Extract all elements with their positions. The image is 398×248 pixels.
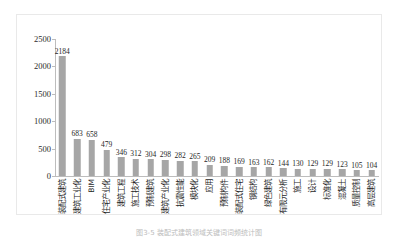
bar-column[interactable]: 282 [173,39,188,176]
plot-area: 2184683658479346312304298282265209188169… [55,39,379,176]
y-axis-tick-labels: 05001000150020002500 [17,39,51,177]
y-axis-tick-mark [52,176,55,177]
bar-value-label: 282 [175,152,186,160]
bar[interactable] [89,140,96,176]
x-axis-label: 应用 [203,179,217,193]
bar-column[interactable]: 144 [276,39,291,176]
bar-column[interactable]: 2184 [55,39,70,176]
bar-value-label: 312 [130,150,141,158]
x-axis-label-slot: 应用 [202,178,217,230]
x-axis-label-slot: 装配式建筑 [55,178,70,230]
x-axis-label-slot: 混凝土 [335,178,350,230]
bar-column[interactable]: 304 [143,39,158,176]
bar-column[interactable]: 265 [188,39,203,176]
x-axis-label-slot: 建筑工程 [114,178,129,230]
x-axis-label: 标准化 [321,179,335,200]
x-axis-label: 建筑工业化 [71,179,85,214]
x-axis-label-slot: 建筑工业化 [70,178,85,230]
bar[interactable] [324,169,331,176]
x-axis-label-slot: 绿色建筑 [261,178,276,230]
x-axis-label-slot: 装配式住宅 [232,178,247,230]
x-axis-label-slot: 抗震性能 [173,178,188,230]
bar-column[interactable]: 129 [320,39,335,176]
x-axis-label-slot: 预制建筑 [143,178,158,230]
bar-value-label: 123 [337,161,348,169]
bar[interactable] [147,159,154,176]
bar-column[interactable]: 658 [84,39,99,176]
bar-value-label: 209 [204,156,215,164]
x-axis-label: 施工 [291,179,305,193]
x-axis-label-slot: 施工技术 [129,178,144,230]
bar[interactable] [118,157,125,176]
bar-column[interactable]: 209 [202,39,217,176]
bar-value-label: 169 [233,158,244,166]
y-axis-tick-mark [52,149,55,150]
x-axis-label-slot: 模块化 [188,178,203,230]
bar[interactable] [354,170,361,176]
x-axis-category-labels: 装配式建筑建筑工业化BIM住宅产业化建筑工程施工技术预制建筑建筑产业化抗震性能模… [55,178,379,230]
bar-value-label: 129 [307,160,318,168]
bar-column[interactable]: 162 [261,39,276,176]
x-axis-label-slot: 设计 [305,178,320,230]
x-axis-label: BIM [85,179,99,193]
y-axis-tick-mark [52,39,55,40]
bar[interactable] [309,169,316,176]
x-axis-label: 混凝土 [336,179,350,200]
bar[interactable] [265,167,272,176]
x-axis-label-slot: 施工 [291,178,306,230]
bar[interactable] [103,150,110,176]
bar-value-label: 130 [292,160,303,168]
bar[interactable] [280,168,287,176]
bar-value-label: 346 [116,149,127,157]
bar[interactable] [206,165,213,176]
bar-value-label: 104 [366,162,377,170]
bar[interactable] [339,169,346,176]
bar-column[interactable]: 479 [99,39,114,176]
bar[interactable] [133,159,140,176]
bar-value-label: 298 [160,151,171,159]
bar[interactable] [177,161,184,176]
bar[interactable] [162,160,169,176]
bar-column[interactable]: 188 [217,39,232,176]
x-axis-label: 施工技术 [129,179,143,207]
x-axis-label-slot: 住宅产业化 [99,178,114,230]
bar-column[interactable]: 129 [305,39,320,176]
bar-column[interactable]: 123 [335,39,350,176]
x-axis-label: 装配式住宅 [233,179,247,214]
bar-value-label: 188 [219,157,230,165]
bar[interactable] [192,161,199,176]
bar-value-label: 2184 [55,48,70,56]
bar-column[interactable]: 163 [246,39,261,176]
x-axis-label: 有限元分析 [277,179,291,214]
bar-column[interactable]: 346 [114,39,129,176]
bar-value-label: 162 [263,159,274,167]
bar[interactable] [368,170,375,176]
bar[interactable] [251,167,258,176]
x-axis-label-slot: 有限元分析 [276,178,291,230]
bar[interactable] [236,167,243,176]
bar-column[interactable]: 105 [350,39,365,176]
bar-column[interactable]: 683 [70,39,85,176]
bar-column[interactable]: 298 [158,39,173,176]
x-axis-label: 抗震性能 [174,179,188,207]
y-axis-tick-0: 0 [47,172,51,181]
bar-value-label: 479 [101,141,112,149]
bar[interactable] [221,166,228,176]
bar-column[interactable]: 104 [364,39,379,176]
bar[interactable] [74,139,81,176]
bar-column[interactable]: 169 [232,39,247,176]
bar-column[interactable]: 130 [291,39,306,176]
x-axis-label-slot: 标准化 [320,178,335,230]
x-axis-label: 预制建筑 [144,179,158,207]
bar-value-label: 144 [278,160,289,168]
bar[interactable] [295,169,302,176]
y-axis-tick-mark [52,121,55,122]
x-axis-label: 质量控制 [350,179,364,207]
bar-column[interactable]: 312 [129,39,144,176]
x-axis-label: 高层建筑 [365,179,379,207]
x-axis-label: 建筑工程 [115,179,129,207]
x-axis-label-slot: 预制构件 [217,178,232,230]
x-axis-label: 绿色建筑 [262,179,276,207]
y-axis-tick-mark [52,66,55,67]
bar[interactable] [59,56,66,176]
